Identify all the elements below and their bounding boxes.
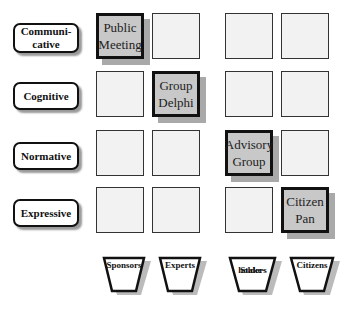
grid-cell	[281, 13, 329, 59]
grid-cell	[281, 71, 329, 117]
column-label-experts: Experts	[159, 257, 201, 293]
grid-cell	[225, 13, 273, 59]
row-label-expressive: Expressive	[13, 199, 79, 227]
grid-cell	[225, 71, 273, 117]
grid-cell	[281, 130, 329, 176]
grid-cell	[96, 130, 144, 176]
grid-cell	[225, 187, 273, 233]
cell-public-meeting: PublicMeeting	[96, 13, 144, 59]
column-label-stakeholders: Stake-holders	[229, 257, 276, 293]
grid-cell	[96, 71, 144, 117]
column-label-citizens: Citizens	[290, 257, 334, 293]
cell-advisory-group: AdvisoryGroup	[225, 130, 273, 176]
grid-cell	[152, 187, 200, 233]
grid-cell	[152, 13, 200, 59]
grid-cell	[152, 130, 200, 176]
row-label-cognitive: Cognitive	[13, 82, 79, 110]
grid-cell	[96, 187, 144, 233]
column-label-sponsors: Sponsors	[103, 257, 145, 293]
row-label-normative: Normative	[13, 142, 79, 170]
cell-group-delphi: GroupDelphi	[152, 71, 200, 117]
cell-citizen-panel: CitizenPan	[281, 187, 329, 233]
row-label-communicative: Communi-cative	[13, 23, 79, 53]
